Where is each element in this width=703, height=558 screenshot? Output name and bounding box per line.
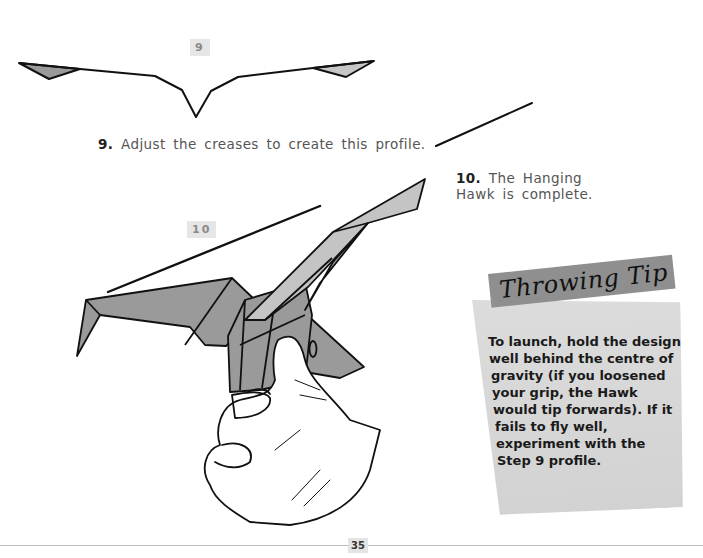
- tip-line: would tip forwards). If it: [493, 401, 688, 418]
- step-10-caption-line-1: The Hanging: [489, 170, 582, 186]
- step-9-caption-text: Adjust the creases to create this profil…: [121, 136, 426, 152]
- tip-line: Step 9 profile.: [497, 452, 688, 469]
- tip-body: To launch, hold the design well behind t…: [488, 333, 688, 469]
- step-10-badge: 10: [187, 221, 216, 238]
- tip-line: To launch, hold the design: [488, 333, 688, 350]
- page-number: 35: [348, 538, 368, 553]
- step-9-profile-diagram: [19, 61, 374, 117]
- step-9-number: 9.: [98, 136, 113, 152]
- tip-line: well behind the centre of: [489, 350, 688, 367]
- tip-line: fails to fly well,: [495, 418, 688, 435]
- step-10-number: 10.: [456, 170, 481, 186]
- step-10-caption: 10. The Hanging Hawk is complete.: [456, 170, 593, 202]
- tip-line: gravity (if you loosened: [491, 367, 688, 384]
- tip-line: your grip, the Hawk: [492, 384, 688, 401]
- step-9-caption: 9. Adjust the creases to create this pro…: [98, 136, 426, 152]
- tip-line: experiment with the: [496, 435, 688, 452]
- hawk-illustration: [77, 179, 425, 392]
- step-10-caption-line-2: Hawk is complete.: [456, 186, 593, 202]
